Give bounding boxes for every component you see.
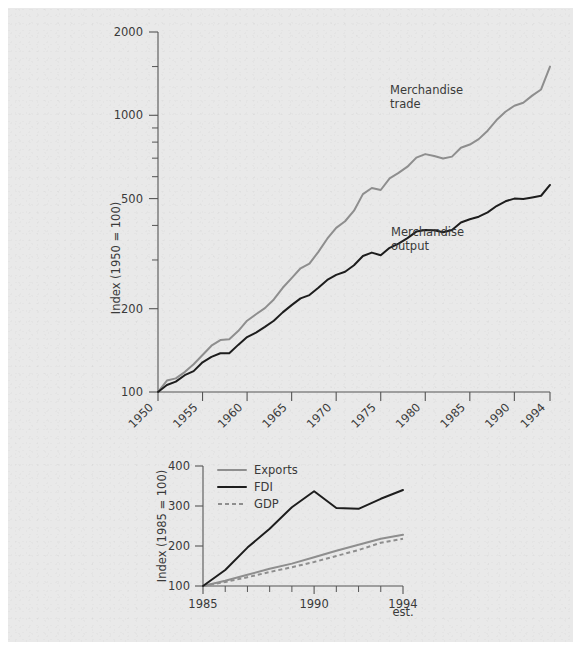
top-y-tick-label: 100 [121, 385, 143, 399]
top-y-tick-label: 1000 [114, 108, 143, 122]
chart-exports-fdi-gdp: 100200300400 198519901994 Index (1985 = … [8, 428, 573, 642]
chart-merchandise-trade-output: 10020050010002000 1950195519601965197019… [8, 8, 573, 428]
legend-label-exports: Exports [254, 463, 298, 477]
top-y-tick-label: 2000 [114, 25, 143, 39]
legend-label-gdp: GDP [254, 497, 279, 511]
series-exports [203, 535, 403, 586]
top-x-tick-label: 1955 [170, 400, 201, 428]
bottom-x-note: est. [392, 605, 413, 619]
annotation-merchandise-trade-line1: Merchandise [390, 83, 463, 97]
legend: Exports FDI GDP [218, 463, 298, 511]
top-y-minor-tick-group [152, 67, 158, 260]
legend-label-fdi: FDI [254, 480, 273, 494]
top-x-tick-label: 1965 [259, 400, 290, 428]
bottom-y-tick-label: 100 [168, 579, 190, 593]
top-x-tick-label: 1975 [348, 400, 379, 428]
top-x-tick-label: 1994 [518, 400, 549, 428]
top-y-tick-label: 200 [121, 302, 143, 316]
bottom-x-tick-group: 198519901994 [188, 586, 417, 611]
top-x-tick-label: 1985 [437, 400, 468, 428]
series-merchandise-trade [158, 67, 550, 392]
top-x-tick-group: 1950195519601965197019751980198519901994 [126, 392, 550, 428]
annotation-merchandise-trade-line2: trade [390, 97, 421, 111]
bottom-y-axis-title: Index (1985 = 100) [155, 470, 169, 582]
series-merchandise-output [158, 185, 550, 392]
top-x-tick-label: 1960 [215, 400, 246, 428]
bottom-x-tick-label: 1985 [188, 597, 217, 611]
top-x-tick-label: 1950 [126, 400, 157, 428]
top-y-axis-title: Index (1950 = 100) [109, 202, 123, 314]
annotation-merchandise-output-line1: Merchandise [391, 225, 464, 239]
bottom-y-tick-group: 100200300400 [168, 459, 203, 593]
top-x-tick-label: 1970 [304, 400, 335, 428]
bottom-y-tick-label: 400 [168, 459, 190, 473]
bottom-y-tick-label: 300 [168, 499, 190, 513]
top-x-tick-label: 1990 [482, 400, 513, 428]
top-x-tick-label: 1980 [393, 400, 424, 428]
annotation-merchandise-output-line2: output [391, 239, 429, 253]
bottom-y-tick-label: 200 [168, 539, 190, 553]
figure-panel: 10020050010002000 1950195519601965197019… [8, 8, 573, 642]
top-y-tick-label: 500 [121, 192, 143, 206]
bottom-x-tick-label: 1990 [299, 597, 328, 611]
